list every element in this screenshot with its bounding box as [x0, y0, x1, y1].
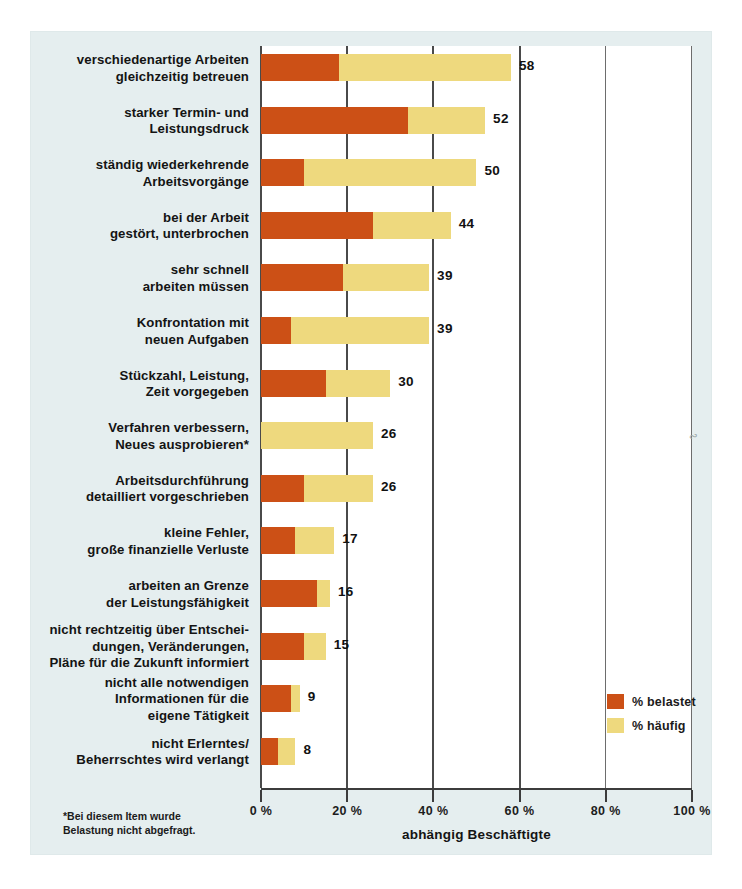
bar-segment-haeufig[interactable]: [343, 264, 429, 291]
bar-segment-haeufig[interactable]: [373, 212, 451, 239]
category-label-line: Arbeitsdurchführung: [31, 473, 249, 490]
category-label-line: Leistungsdruck: [31, 121, 249, 138]
category-label-line: neuen Aufgaben: [31, 332, 249, 349]
bar-segment-haeufig[interactable]: [304, 633, 326, 660]
bar-segment-belastet[interactable]: [261, 370, 326, 397]
bar-row[interactable]: Stückzahl, Leistung,Zeit vorgegeben30: [31, 370, 711, 423]
stacked-bar[interactable]: [261, 264, 429, 291]
bar-segment-belastet[interactable]: [261, 54, 339, 81]
footnote-line-1: *Bei diesem Item wurde: [63, 810, 263, 824]
stacked-bar[interactable]: [261, 54, 511, 81]
category-label-line: starker Termin- und: [31, 105, 249, 122]
category-label: Verfahren verbessern,Neues ausprobieren*: [31, 420, 249, 453]
bar-segment-belastet[interactable]: [261, 475, 304, 502]
bar-segment-haeufig[interactable]: [326, 370, 391, 397]
tick-label-60: 60 %: [505, 804, 535, 818]
stacked-bar[interactable]: [261, 580, 330, 607]
bar-segment-haeufig[interactable]: [261, 422, 373, 449]
x-axis-title: abhängig Beschäftigte: [261, 827, 692, 842]
legend-swatch: [607, 718, 624, 733]
bar-row[interactable]: Verfahren verbessern,Neues ausprobieren*…: [31, 422, 711, 475]
bar-segment-belastet[interactable]: [261, 633, 304, 660]
tick-label-100: 100 %: [673, 804, 710, 818]
category-label-line: dungen, Veränderungen,: [31, 639, 249, 656]
stacked-bar[interactable]: [261, 527, 334, 554]
bar-segment-haeufig[interactable]: [291, 317, 429, 344]
bar-segment-haeufig[interactable]: [278, 738, 295, 765]
bar-segment-haeufig[interactable]: [408, 107, 486, 134]
bar-value-label: 8: [303, 742, 311, 757]
bar-row[interactable]: ständig wiederkehrendeArbeitsvorgänge50: [31, 159, 711, 212]
bar-segment-belastet[interactable]: [261, 685, 291, 712]
bar-row[interactable]: sehr schnellarbeiten müssen39: [31, 264, 711, 317]
footnote-line-2: Belastung nicht abgefragt.: [63, 824, 263, 838]
stacked-bar[interactable]: [261, 159, 477, 186]
category-label-line: der Leistungsfähigkeit: [31, 595, 249, 612]
stacked-bar[interactable]: [261, 212, 451, 239]
bar-segment-haeufig[interactable]: [295, 527, 334, 554]
category-label: kleine Fehler,große finanzielle Verluste: [31, 525, 249, 558]
category-label: arbeiten an Grenzeder Leistungsfähigkeit: [31, 578, 249, 611]
bar-value-label: 17: [342, 531, 358, 546]
bar-value-label: 39: [437, 321, 453, 336]
bar-row[interactable]: verschiedenartige Arbeitengleichzeitig b…: [31, 54, 711, 107]
tick-label-80: 80 %: [591, 804, 621, 818]
bar-segment-haeufig[interactable]: [339, 54, 511, 81]
stacked-bar[interactable]: [261, 633, 326, 660]
bar-row[interactable]: Konfrontation mitneuen Aufgaben39: [31, 317, 711, 370]
category-label: nicht alle notwendigenInformationen für …: [31, 675, 249, 725]
bar-value-label: 15: [334, 637, 350, 652]
bar-row[interactable]: starker Termin- undLeistungsdruck52: [31, 107, 711, 160]
bar-segment-haeufig[interactable]: [304, 159, 476, 186]
legend-item[interactable]: % häufig: [607, 718, 727, 733]
stacked-bar[interactable]: [261, 317, 429, 344]
bar-segment-haeufig[interactable]: [304, 475, 373, 502]
category-label: Stückzahl, Leistung,Zeit vorgegeben: [31, 368, 249, 401]
bar-row[interactable]: bei der Arbeitgestört, unterbrochen44: [31, 212, 711, 265]
bar-segment-haeufig[interactable]: [291, 685, 300, 712]
stacked-bar[interactable]: [261, 685, 300, 712]
category-label-line: Verfahren verbessern,: [31, 420, 249, 437]
category-label-line: gleichzeitig betreuen: [31, 69, 249, 86]
category-label-line: Konfrontation mit: [31, 315, 249, 332]
category-label-line: detailliert vorgeschrieben: [31, 489, 249, 506]
bar-segment-belastet[interactable]: [261, 580, 317, 607]
tick-mark-40: [432, 790, 434, 802]
bar-segment-belastet[interactable]: [261, 159, 304, 186]
legend: % belastet% häufig: [607, 694, 727, 742]
bar-segment-belastet[interactable]: [261, 212, 373, 239]
legend-item[interactable]: % belastet: [607, 694, 727, 709]
bar-segment-belastet[interactable]: [261, 527, 295, 554]
category-label: Konfrontation mitneuen Aufgaben: [31, 315, 249, 348]
category-label: nicht Erlerntes/Beherrschtes wird verlan…: [31, 736, 249, 769]
bar-segment-belastet[interactable]: [261, 317, 291, 344]
category-label-line: verschiedenartige Arbeiten: [31, 52, 249, 69]
bar-value-label: 39: [437, 268, 453, 283]
bar-row[interactable]: nicht Erlerntes/Beherrschtes wird verlan…: [31, 738, 711, 791]
bar-segment-belastet[interactable]: [261, 738, 278, 765]
category-label: nicht rechtzeitig über Entschei-dungen, …: [31, 622, 249, 672]
legend-label: % belastet: [632, 695, 696, 709]
legend-label: % häufig: [632, 719, 686, 733]
category-label-line: nicht Erlerntes/: [31, 736, 249, 753]
category-label: verschiedenartige Arbeitengleichzeitig b…: [31, 52, 249, 85]
bar-row[interactable]: kleine Fehler,große finanzielle Verluste…: [31, 527, 711, 580]
stacked-bar[interactable]: [261, 422, 373, 449]
bar-value-label: 30: [398, 374, 414, 389]
stacked-bar[interactable]: [261, 738, 295, 765]
bar-value-label: 58: [519, 58, 535, 73]
bar-value-label: 9: [308, 689, 316, 704]
category-label-line: eigene Tätigkeit: [31, 708, 249, 725]
bar-segment-haeufig[interactable]: [317, 580, 330, 607]
stacked-bar[interactable]: [261, 107, 485, 134]
bar-segment-belastet[interactable]: [261, 264, 343, 291]
category-label-line: nicht alle notwendigen: [31, 675, 249, 692]
category-label-line: bei der Arbeit: [31, 210, 249, 227]
category-label-line: nicht rechtzeitig über Entschei-: [31, 622, 249, 639]
bar-segment-belastet[interactable]: [261, 107, 408, 134]
stacked-bar[interactable]: [261, 475, 373, 502]
category-label-line: sehr schnell: [31, 262, 249, 279]
bar-row[interactable]: Arbeitsdurchführungdetailliert vorgeschr…: [31, 475, 711, 528]
stacked-bar[interactable]: [261, 370, 390, 397]
category-label-line: Arbeitsvorgänge: [31, 174, 249, 191]
